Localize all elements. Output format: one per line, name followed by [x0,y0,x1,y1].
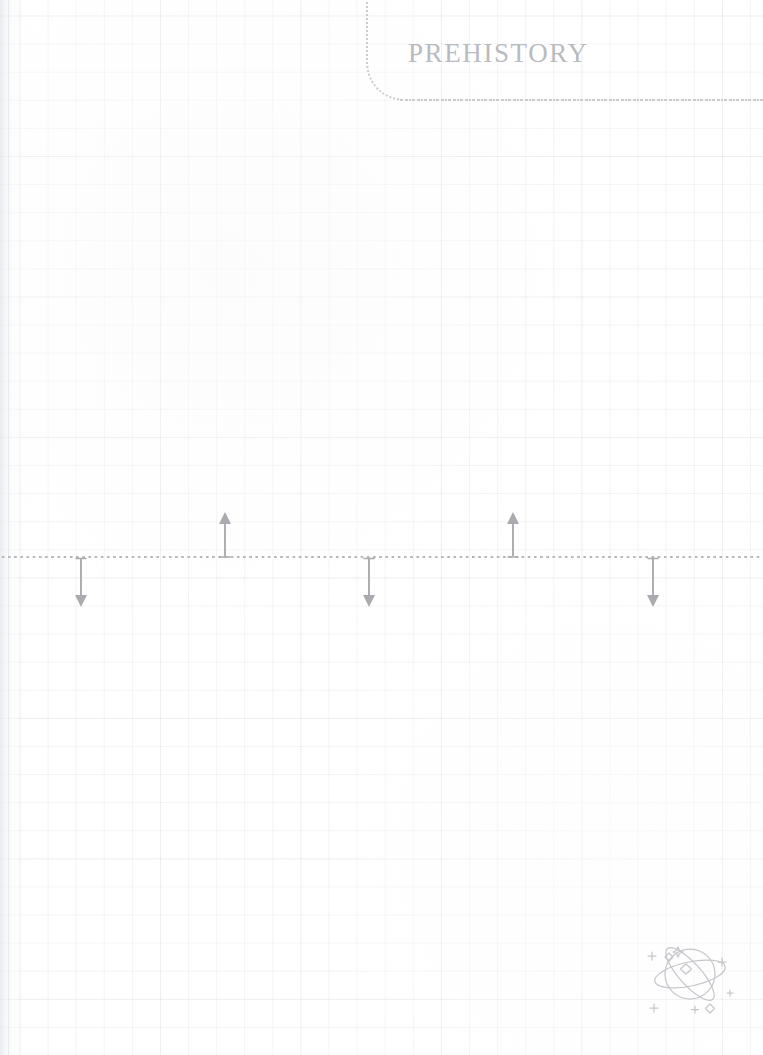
page-title: PREHISTORY [408,38,589,69]
timeline-marker-up-2[interactable] [504,510,522,561]
timeline-marker-up-1[interactable] [216,510,234,561]
title-card-top-rule [398,99,763,101]
grid-paper-background [0,0,763,1055]
timeline-marker-down-1[interactable] [72,557,90,613]
page-fold-line [8,0,9,1055]
prehistory-timeline-page: PREHISTORY [0,0,763,1055]
timeline-marker-down-3[interactable] [644,557,662,613]
paper-texture-overlay [0,0,763,1055]
planet-icon [638,928,742,1020]
timeline-marker-down-2[interactable] [360,557,378,613]
page-fold-shadow [0,0,26,1055]
grid-paper-major-lines [0,0,763,1055]
